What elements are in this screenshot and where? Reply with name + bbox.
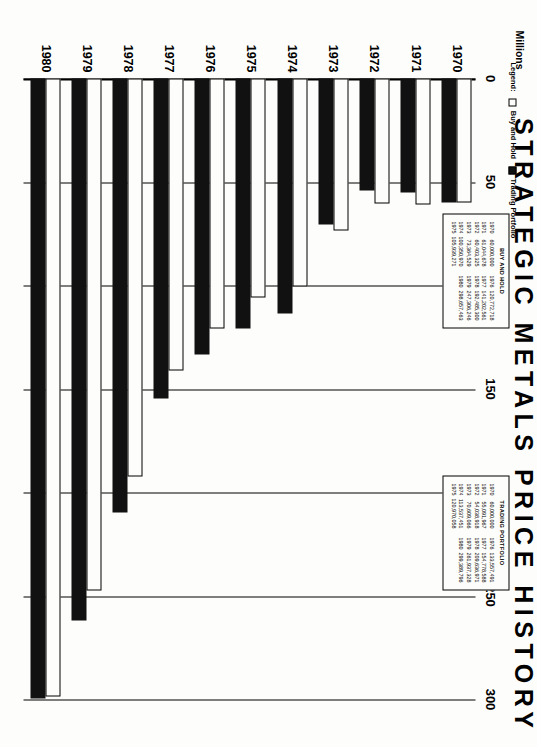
bar-group-1979 — [64, 78, 105, 699]
table-cell: 120,772,718 — [486, 290, 494, 320]
y-category-label-1977: 1977 — [161, 36, 175, 72]
plot-area: 0501001502002503001970197119721973197419… — [23, 78, 475, 699]
table-cell: 1978 — [471, 275, 479, 290]
table-cell: 55,091,967 — [479, 498, 487, 537]
x-tick-label: 150 — [482, 378, 497, 400]
bar-trading-portfolio-1975 — [235, 78, 250, 328]
table-cell: 1980 — [456, 275, 464, 290]
table-row: 1975120,970,058 — [448, 483, 456, 582]
table-cell: 60,000,000 — [486, 498, 494, 537]
y-category-label-1976: 1976 — [202, 36, 216, 72]
table-cell: 1977 — [479, 275, 487, 290]
bar-trading-portfolio-1972 — [359, 78, 374, 190]
bar-buy-and-hold-1974 — [292, 78, 307, 286]
bar-trading-portfolio-1979 — [71, 78, 86, 620]
table-cell — [448, 537, 456, 552]
table-cell: 1978 — [471, 537, 479, 552]
bar-group-1970 — [434, 78, 475, 699]
table-cell: 1971 — [479, 221, 487, 236]
bar-buy-and-hold-1977 — [168, 78, 183, 370]
x-tick-label: 50 — [482, 174, 497, 188]
table-cell: 154,778,588 — [479, 552, 487, 582]
table-cell: 1976 — [486, 275, 494, 290]
bar-buy-and-hold-1975 — [250, 78, 265, 297]
y-category-label-1974: 1974 — [284, 36, 298, 72]
table-cell: 1973 — [463, 221, 471, 236]
table-cell: 209,636,971 — [471, 552, 479, 582]
bar-buy-and-hold-1976 — [209, 78, 224, 328]
bar-trading-portfolio-1978 — [112, 78, 127, 512]
poster-page: STRATEGIC METALS PRICE HISTORY Millions … — [0, 0, 537, 747]
bar-trading-portfolio-1976 — [194, 78, 209, 354]
table-cell — [448, 290, 456, 320]
table-row: 197254,038,9181978209,636,971 — [471, 483, 479, 582]
table-cell: 1975 — [448, 221, 456, 236]
legend-prefix: Legend: — [508, 62, 517, 91]
bar-buy-and-hold-1978 — [127, 78, 142, 476]
table-cell: 120,970,058 — [448, 498, 456, 537]
table-row: 197060,000,0001976133,557,491 — [486, 483, 494, 582]
bar-trading-portfolio-1970 — [441, 78, 456, 202]
table-row: 1974100,350,9701980298,657,463 — [456, 221, 464, 320]
y-category-label-1975: 1975 — [243, 36, 257, 72]
y-category-label-1978: 1978 — [120, 36, 134, 72]
table-row: 1975105,939,271 — [448, 221, 456, 320]
data-table-buy-and-hold: BUY AND HOLD 197060,000,0001976120,772,7… — [442, 213, 509, 328]
table-cell: 73,364,529 — [463, 236, 471, 275]
bar-trading-portfolio-1977 — [153, 78, 168, 398]
chart-canvas: STRATEGIC METALS PRICE HISTORY Millions … — [0, 0, 537, 747]
bar-trading-portfolio-1974 — [277, 78, 292, 313]
x-tick-label: 0 — [482, 74, 497, 81]
table-row: 197370,609,0661979261,937,328 — [463, 483, 471, 582]
table-cell: 1979 — [463, 537, 471, 552]
table-cell: 1974 — [456, 483, 464, 498]
bar-group-1976 — [187, 78, 228, 699]
y-category-label-1973: 1973 — [325, 36, 339, 72]
bar-group-1978 — [105, 78, 146, 699]
table-cell: 141,202,561 — [479, 290, 487, 320]
table-cell: 1975 — [448, 483, 456, 498]
table-cell: 54,038,918 — [471, 498, 479, 537]
table-cell: 60,403,325 — [471, 236, 479, 275]
table-cell: 100,350,970 — [456, 236, 464, 275]
bar-trading-portfolio-1980 — [30, 78, 45, 698]
bar-trading-portfolio-1971 — [400, 78, 415, 192]
x-tick-label: 300 — [482, 688, 497, 710]
bar-buy-and-hold-1980 — [45, 78, 60, 696]
table-cell: 61,044,678 — [479, 236, 487, 275]
legend-swatch-trading-portfolio — [508, 166, 516, 174]
table-row: 197260,403,3251978192,485,300 — [471, 221, 479, 320]
table-cell: 1979 — [463, 275, 471, 290]
table-body: 197060,000,0001976120,772,718197161,044,… — [448, 221, 494, 320]
bar-buy-and-hold-1971 — [415, 78, 430, 204]
bar-buy-and-hold-1972 — [374, 78, 389, 203]
data-table-trading-portfolio: TRADING PORTFOLIO 197060,000,0001976133,… — [442, 475, 509, 590]
bar-group-1980 — [23, 78, 64, 699]
table-cell: 192,485,300 — [471, 290, 479, 320]
table-row: 197161,044,6781977141,202,561 — [479, 221, 487, 320]
table-cell: 1972 — [471, 483, 479, 498]
table-cell: 299,389,796 — [456, 552, 464, 582]
table-cell: 261,937,328 — [463, 552, 471, 582]
bar-buy-and-hold-1973 — [333, 78, 348, 230]
chart-legend: Legend: Buy and Hold Trading Portfolio — [507, 62, 517, 238]
bar-group-1974 — [270, 78, 311, 699]
table-cell: 247,306,246 — [463, 290, 471, 320]
bar-group-1971 — [393, 78, 434, 699]
table-cell: 70,609,066 — [463, 498, 471, 537]
table-cell: 1976 — [486, 537, 494, 552]
legend-swatch-buy-and-hold — [508, 98, 516, 106]
y-category-label-1979: 1979 — [79, 36, 93, 72]
table-cell: 133,557,491 — [486, 552, 494, 582]
table-cell: 1980 — [456, 537, 464, 552]
bar-group-1977 — [146, 78, 187, 699]
table-cell: 1977 — [479, 537, 487, 552]
table-cell: 113,537,451 — [456, 498, 464, 537]
table-cell: 298,657,463 — [456, 290, 464, 320]
table-row: 197060,000,0001976120,772,718 — [486, 221, 494, 320]
table-row: 1974113,537,4511980299,389,796 — [456, 483, 464, 582]
bar-buy-and-hold-1970 — [456, 78, 471, 202]
bar-group-1973 — [311, 78, 352, 699]
table-row: 197155,091,9671977154,778,588 — [479, 483, 487, 582]
table-cell — [448, 275, 456, 290]
